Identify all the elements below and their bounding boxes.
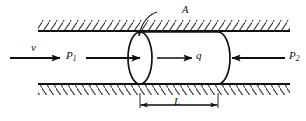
cylinder-far-face-arc — [218, 32, 230, 84]
downstream-pressure-subscript: 2 — [296, 54, 300, 63]
diagram-canvas — [0, 0, 306, 121]
velocity-label: v — [31, 42, 36, 53]
pipe-wall-bottom — [38, 84, 290, 95]
pipe-wall-top — [38, 20, 290, 31]
upstream-pressure-subscript: 1 — [73, 54, 77, 63]
upstream-pressure-symbol: P — [66, 49, 73, 61]
pipe-wall-top-hatching — [38, 20, 290, 31]
flow-rate-label: q — [196, 50, 202, 61]
downstream-pressure-label: P2 — [289, 50, 299, 63]
pipe-flow-diagram: v A P1 q P2 L — [0, 0, 306, 121]
area-label: A — [182, 5, 188, 16]
length-label: L — [174, 96, 180, 107]
downstream-pressure-symbol: P — [289, 49, 296, 61]
upstream-pressure-label: P1 — [66, 50, 76, 63]
pipe-wall-bottom-hatching — [38, 84, 290, 95]
